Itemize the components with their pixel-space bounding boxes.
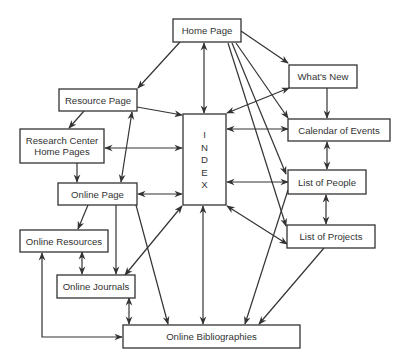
node-label: X <box>201 179 208 190</box>
node-home: Home Page <box>173 19 241 42</box>
node-label: N <box>201 142 208 153</box>
node-label: Home Page <box>182 25 233 36</box>
node-onlineres: Online Resources <box>20 230 108 252</box>
edge-online-to-biblio <box>136 205 168 324</box>
node-label: I <box>203 129 206 140</box>
edge-resource-to-research <box>69 111 84 128</box>
edge-home-to-people <box>232 43 286 174</box>
node-journals: Online Journals <box>57 275 135 298</box>
edge-projects-to-biblio <box>259 248 324 324</box>
node-calendar: Calendar of Events <box>288 119 390 141</box>
node-label: Online Page <box>71 189 124 200</box>
edge-projects-to-index <box>227 206 287 244</box>
node-label: Resource Page <box>65 95 131 106</box>
node-label: Online Resources <box>26 236 102 247</box>
node-online: Online Page <box>58 183 137 205</box>
edge-whatsnew-to-index <box>227 88 289 113</box>
edge-people-to-biblio <box>245 190 288 324</box>
node-label: Online Journals <box>63 281 130 292</box>
edge-journals-to-index <box>125 206 182 275</box>
node-label: List of People <box>298 177 356 188</box>
edge-home-to-resource <box>138 42 180 88</box>
node-label: E <box>201 167 207 178</box>
node-research: Research CenterHome Pages <box>20 129 104 163</box>
node-label: Home Pages <box>34 146 90 157</box>
node-projects: List of Projects <box>287 225 375 248</box>
edge-resource-to-online <box>121 112 132 182</box>
node-label: Calendar of Events <box>298 125 380 136</box>
edge-home-to-projects <box>228 43 286 226</box>
node-label: D <box>201 154 208 165</box>
node-label: Online Bibliographies <box>166 331 257 342</box>
node-label: List of Projects <box>300 231 363 242</box>
edge-home-to-whatsnew <box>241 31 288 63</box>
node-index: INDEX <box>183 114 226 205</box>
site-map-diagram: Home PageWhat's NewCalendar of EventsLis… <box>0 0 410 364</box>
edge-online-to-onlineres <box>78 205 88 229</box>
node-label: What's New <box>298 71 349 82</box>
node-resource: Resource Page <box>59 89 137 111</box>
edge-resource-to-index <box>137 107 182 115</box>
node-label: Research Center <box>26 135 99 146</box>
node-biblio: Online Bibliographies <box>123 325 300 348</box>
node-people: List of People <box>288 170 366 194</box>
node-whatsnew: What's New <box>289 65 357 88</box>
